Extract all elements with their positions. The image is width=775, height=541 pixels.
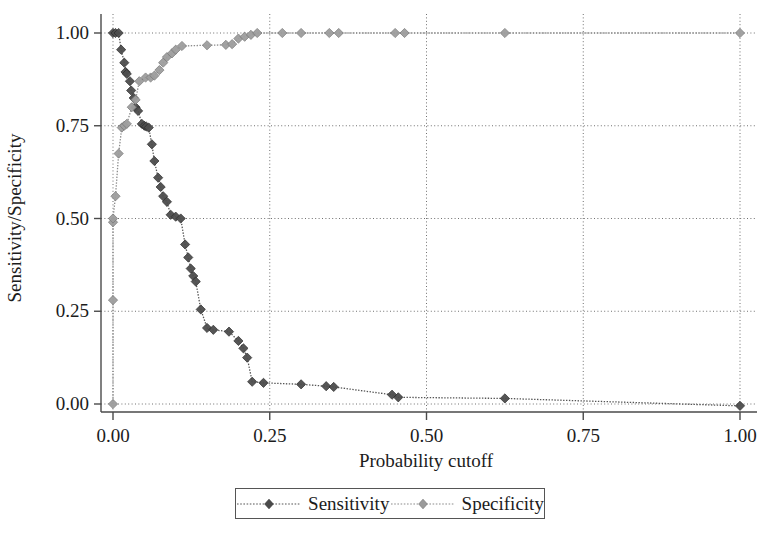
- x-tick-label: 0.00: [96, 425, 129, 447]
- y-axis-title: Sensitivity/Specificity: [4, 134, 26, 303]
- x-tick-label: 0.75: [567, 425, 600, 447]
- y-tick-label: 0.75: [56, 115, 89, 137]
- y-tick-label: 0.50: [56, 208, 89, 230]
- x-axis-title: Probability cutoff: [359, 450, 493, 472]
- x-tick-label: 0.25: [253, 425, 286, 447]
- x-tick-label: 0.50: [410, 425, 443, 447]
- legend-entry-specificity: Specificity: [390, 493, 544, 515]
- gridlines: [101, 14, 757, 412]
- y-tick-label: 0.00: [56, 393, 89, 415]
- x-tick-label: 1.00: [723, 425, 756, 447]
- legend-marker-sensitivity: [236, 497, 302, 511]
- y-tick-label: 1.00: [56, 22, 89, 44]
- legend-marker-specificity: [390, 497, 456, 511]
- axis-lines: [101, 14, 757, 412]
- legend-label-sensitivity: Sensitivity: [308, 493, 389, 515]
- tick-marks: [94, 33, 740, 420]
- legend-entry-sensitivity: Sensitivity: [236, 493, 389, 515]
- legend-label-specificity: Specificity: [462, 493, 544, 515]
- y-tick-label: 0.25: [56, 300, 89, 322]
- chart-legend: Sensitivity Specificity: [235, 488, 545, 519]
- roc-cutoff-figure: 0.000.250.500.751.00 0.000.250.500.751.0…: [0, 0, 775, 541]
